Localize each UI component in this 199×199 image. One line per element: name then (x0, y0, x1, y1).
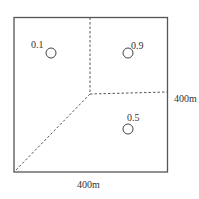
sites (46, 48, 133, 134)
voronoi-diagram: 0.1 0.9 0.5 400m 400m (0, 0, 199, 199)
site-label-2: 0.9 (131, 40, 144, 51)
dimension-label-right: 400m (174, 93, 197, 104)
dimension-label-bottom: 400m (77, 179, 100, 190)
site-label-3: 0.5 (127, 112, 140, 123)
site-circle-1 (46, 48, 56, 58)
site-circle-3 (123, 124, 133, 134)
site-label-1: 0.1 (31, 39, 44, 50)
